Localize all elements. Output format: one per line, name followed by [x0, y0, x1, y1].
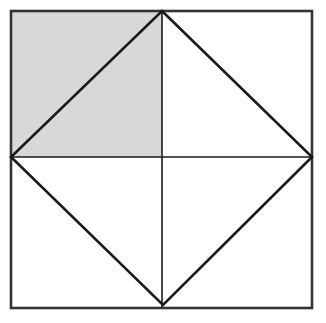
figure-container: Square with inscribed diamond and shaded…	[0, 0, 326, 323]
geometric-figure: Square with inscribed diamond and shaded…	[0, 0, 326, 323]
